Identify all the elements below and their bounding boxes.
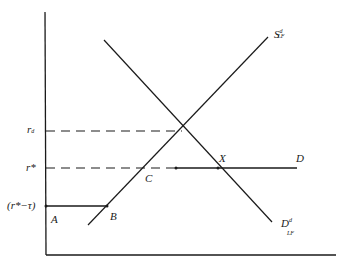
label-D: D	[296, 153, 304, 164]
label-supply-curve: SdLF	[274, 28, 285, 40]
label-r-star-minus-tau: (r*−τ)	[7, 200, 35, 211]
label-C: C	[145, 173, 152, 184]
label-demand-curve: Dd LF	[281, 217, 294, 236]
label-B: B	[110, 211, 117, 222]
point-A-marker	[45, 205, 48, 208]
label-A: A	[51, 214, 58, 225]
label-r-star: r*	[26, 162, 36, 173]
point-B-marker	[106, 205, 109, 208]
label-r-d: rd	[27, 124, 34, 135]
point-C-marker	[175, 167, 178, 170]
y-axis	[45, 12, 46, 255]
label-X: X	[219, 153, 226, 164]
point-X-marker	[217, 167, 220, 170]
